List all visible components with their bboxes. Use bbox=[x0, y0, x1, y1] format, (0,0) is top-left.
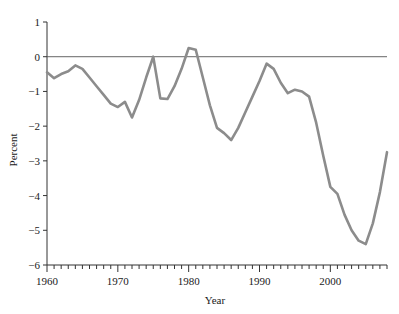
chart-background bbox=[0, 0, 399, 314]
y-tick-label: −4 bbox=[28, 190, 40, 202]
y-tick-label: 0 bbox=[35, 51, 41, 63]
y-tick-label: −3 bbox=[28, 155, 40, 167]
line-chart: 10−1−2−3−4−5−6 19601970198019902000 Perc… bbox=[0, 0, 399, 314]
x-tick-label: 2000 bbox=[319, 275, 342, 287]
y-tick-label: 1 bbox=[35, 16, 41, 28]
y-tick-label: −5 bbox=[28, 224, 40, 236]
y-tick-label: −6 bbox=[28, 259, 40, 271]
y-axis-title: Percent bbox=[7, 134, 19, 167]
y-tick-label: −1 bbox=[28, 85, 40, 97]
x-axis-title: Year bbox=[205, 294, 226, 306]
y-tick-label: −2 bbox=[28, 120, 40, 132]
chart-container: 10−1−2−3−4−5−6 19601970198019902000 Perc… bbox=[0, 0, 399, 314]
x-tick-label: 1960 bbox=[36, 275, 59, 287]
x-tick-label: 1970 bbox=[107, 275, 130, 287]
x-tick-label: 1990 bbox=[249, 275, 272, 287]
x-tick-label: 1980 bbox=[178, 275, 201, 287]
